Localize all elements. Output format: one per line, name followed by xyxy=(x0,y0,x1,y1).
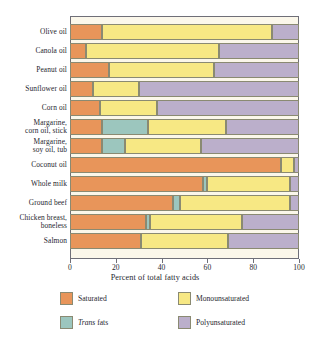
bar-segment-monounsaturated xyxy=(93,81,139,97)
y-axis-label: Canola oil xyxy=(0,47,67,55)
bar-row xyxy=(70,195,299,211)
bar-segment-monounsaturated xyxy=(281,157,295,173)
bar-row xyxy=(70,214,299,230)
x-axis-title: Percent of total fatty acids xyxy=(0,273,310,282)
bar-segment-polyunsaturated xyxy=(139,81,299,97)
bar-segment-polyunsaturated xyxy=(242,214,299,230)
legend-label: Saturated xyxy=(78,294,107,303)
x-axis-tick-label: 60 xyxy=(192,263,222,272)
bar-row xyxy=(70,62,299,78)
bar-row xyxy=(70,81,299,97)
bar-segment-polyunsaturated xyxy=(228,233,299,249)
bar-segment-polyunsaturated xyxy=(290,195,299,211)
bar-segment-polyunsaturated xyxy=(214,62,299,78)
bar-segment-saturated xyxy=(70,100,100,116)
bar-segment-saturated xyxy=(70,119,102,135)
chart-legend: SaturatedMonounsaturatedTrans fatsPolyun… xyxy=(60,292,292,329)
y-axis-label: Olive oil xyxy=(0,28,67,36)
fatty-acid-composition-chart: Percent of total fatty acids SaturatedMo… xyxy=(0,0,310,342)
bar-segment-saturated xyxy=(70,81,93,97)
y-axis-label: Corn oil xyxy=(0,104,67,112)
bar-segment-monounsaturated xyxy=(86,43,219,59)
bar-segment-saturated xyxy=(70,176,203,192)
legend-swatch-icon xyxy=(60,316,73,329)
y-axis-label: Peanut oil xyxy=(0,66,67,74)
bar-row xyxy=(70,24,299,40)
y-axis-label: Margarine,corn oil, stick xyxy=(0,119,67,135)
bar-segment-trans-fats xyxy=(102,138,125,154)
x-axis-tick-label: 0 xyxy=(55,263,85,272)
y-axis-label: Salmon xyxy=(0,237,67,245)
legend-item: Saturated xyxy=(60,292,174,305)
legend-swatch-icon xyxy=(178,316,191,329)
bar-segment-polyunsaturated xyxy=(157,100,299,116)
bar-segment-saturated xyxy=(70,43,86,59)
bar-segment-saturated xyxy=(70,157,281,173)
y-axis-label: Chicken breast,boneless xyxy=(0,214,67,230)
bar-segment-monounsaturated xyxy=(207,176,289,192)
y-axis-label: Whole milk xyxy=(0,180,67,188)
bar-segment-trans-fats xyxy=(173,195,180,211)
bar-segment-polyunsaturated xyxy=(219,43,299,59)
bar-segment-saturated xyxy=(70,195,173,211)
legend-item: Polyunsaturated xyxy=(178,316,292,329)
bar-segment-polyunsaturated xyxy=(201,138,299,154)
bar-segment-monounsaturated xyxy=(102,24,271,40)
bar-row xyxy=(70,43,299,59)
legend-label: Polyunsaturated xyxy=(196,318,245,327)
bar-segment-saturated xyxy=(70,62,109,78)
x-axis-tick-label: 100 xyxy=(284,263,310,272)
y-axis-label: Sunflower oil xyxy=(0,85,67,93)
legend-label: Monounsaturated xyxy=(196,294,249,303)
bar-segment-polyunsaturated xyxy=(272,24,299,40)
bar-row xyxy=(70,233,299,249)
x-axis-tick-label: 40 xyxy=(147,263,177,272)
bar-segment-monounsaturated xyxy=(109,62,214,78)
y-axis-label: Margarine,soy oil, tub xyxy=(0,138,67,154)
bar-segment-saturated xyxy=(70,233,141,249)
legend-label: Trans fats xyxy=(78,318,108,327)
bar-segment-monounsaturated xyxy=(150,214,242,230)
legend-swatch-icon xyxy=(60,292,73,305)
plot-area xyxy=(70,24,299,252)
bar-row xyxy=(70,138,299,154)
legend-swatch-icon xyxy=(178,292,191,305)
bar-row xyxy=(70,100,299,116)
y-axis-label: Coconut oil xyxy=(0,161,67,169)
bar-segment-monounsaturated xyxy=(141,233,228,249)
x-axis-tick-label: 20 xyxy=(101,263,131,272)
bar-segment-monounsaturated xyxy=(148,119,226,135)
y-axis-label: Ground beef xyxy=(0,199,67,207)
x-axis-tick-label: 80 xyxy=(238,263,268,272)
bar-segment-monounsaturated xyxy=(100,100,157,116)
bar-row xyxy=(70,157,299,173)
bar-segment-saturated xyxy=(70,138,102,154)
bar-segment-monounsaturated xyxy=(125,138,201,154)
bar-row xyxy=(70,119,299,135)
bar-segment-saturated xyxy=(70,24,102,40)
bar-segment-monounsaturated xyxy=(180,195,290,211)
bar-segment-saturated xyxy=(70,214,146,230)
bar-row xyxy=(70,176,299,192)
legend-item: Monounsaturated xyxy=(178,292,292,305)
bar-segment-polyunsaturated xyxy=(290,176,299,192)
bar-segment-polyunsaturated xyxy=(294,157,299,173)
bar-segment-trans-fats xyxy=(102,119,148,135)
legend-item: Trans fats xyxy=(60,316,174,329)
bar-segment-polyunsaturated xyxy=(226,119,299,135)
